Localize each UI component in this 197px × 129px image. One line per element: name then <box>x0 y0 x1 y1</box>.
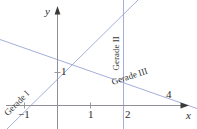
line-label-gerade-ii: Gerade II <box>112 36 121 70</box>
y-tick-label-one: 1 <box>61 66 67 77</box>
y-axis-label: y <box>45 6 50 17</box>
x-axis-arrowhead <box>181 103 190 109</box>
x-axis-label: x <box>186 110 191 121</box>
coordinate-plane-figure: y x −1 1 2 4 1 Gerade I Gerade II Gerade… <box>0 0 197 129</box>
y-axis-arrowhead <box>55 6 61 15</box>
x-tick-label-one: 1 <box>88 109 94 120</box>
x-tick-label-minus-one: −1 <box>18 109 30 120</box>
x-tick-label-four: 4 <box>166 89 172 100</box>
x-tick-label-two: 2 <box>125 109 131 120</box>
